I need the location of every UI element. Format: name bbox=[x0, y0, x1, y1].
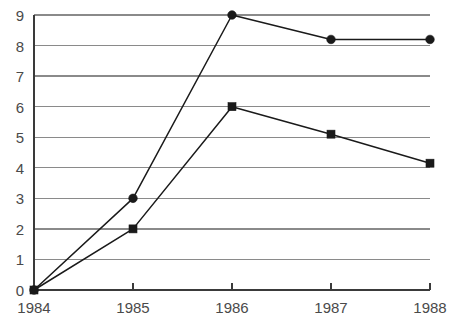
data-point-marker-square bbox=[30, 286, 38, 294]
data-point-marker-square bbox=[327, 130, 335, 138]
y-axis-tick-label: 9 bbox=[16, 7, 24, 24]
data-point-marker-square bbox=[228, 103, 236, 111]
gridlines bbox=[34, 15, 430, 290]
data-point-markers bbox=[30, 11, 435, 295]
y-axis-tick-label: 6 bbox=[16, 99, 24, 116]
line-chart: 0123456789 19841985198619871988 bbox=[0, 0, 456, 320]
y-axis-tick-labels: 0123456789 bbox=[16, 7, 24, 299]
x-axis-tick-label: 1986 bbox=[215, 299, 248, 316]
series-line-series-1 bbox=[34, 15, 430, 290]
x-axis-tick-label: 1987 bbox=[314, 299, 347, 316]
x-axis-tick-label: 1988 bbox=[413, 299, 446, 316]
y-axis-tick-label: 5 bbox=[16, 129, 24, 146]
y-axis-tick-label: 0 bbox=[16, 282, 24, 299]
data-point-marker-circle bbox=[327, 35, 336, 44]
y-axis-tick-label: 4 bbox=[16, 160, 24, 177]
x-axis-tick-label: 1984 bbox=[17, 299, 50, 316]
data-point-marker-square bbox=[129, 225, 137, 233]
x-axis-tick-label: 1985 bbox=[116, 299, 149, 316]
y-axis-tick-label: 3 bbox=[16, 190, 24, 207]
x-axis-tickmarks bbox=[34, 283, 430, 290]
x-axis-tick-labels: 19841985198619871988 bbox=[17, 299, 446, 316]
chart-container: 0123456789 19841985198619871988 bbox=[0, 0, 456, 320]
data-series bbox=[34, 15, 430, 290]
data-point-marker-circle bbox=[228, 11, 237, 20]
y-axis-tick-label: 7 bbox=[16, 68, 24, 85]
y-axis-tick-label: 1 bbox=[16, 251, 24, 268]
y-axis-tick-label: 8 bbox=[16, 38, 24, 55]
data-point-marker-circle bbox=[426, 35, 435, 44]
y-axis-tick-label: 2 bbox=[16, 221, 24, 238]
data-point-marker-square bbox=[426, 159, 434, 167]
data-point-marker-circle bbox=[129, 194, 138, 203]
